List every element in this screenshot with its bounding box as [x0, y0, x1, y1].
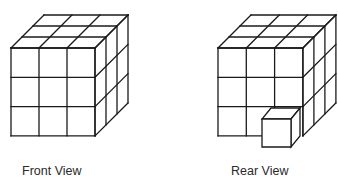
- top-face-line: [218, 15, 251, 48]
- right-face-line: [95, 15, 128, 48]
- protruding-cube-front: [262, 119, 291, 147]
- front-view-label: Front View: [22, 165, 82, 178]
- top-face-line: [39, 15, 72, 48]
- rear-view-cube: [218, 15, 336, 147]
- right-face-line: [303, 44, 336, 77]
- front-view-cube: [11, 15, 128, 136]
- right-face-line: [95, 103, 128, 136]
- rear-view-label: Rear View: [231, 165, 288, 178]
- right-face-line: [303, 74, 336, 107]
- right-face-line: [95, 74, 128, 107]
- right-face-line: [303, 15, 336, 48]
- top-face-line: [275, 15, 308, 48]
- top-face-line: [67, 15, 100, 48]
- top-face-line: [246, 15, 279, 48]
- right-face-line: [303, 103, 336, 136]
- cube-diagram: Front View Rear View: [0, 0, 338, 187]
- right-face-line: [95, 44, 128, 77]
- top-face-line: [11, 15, 44, 48]
